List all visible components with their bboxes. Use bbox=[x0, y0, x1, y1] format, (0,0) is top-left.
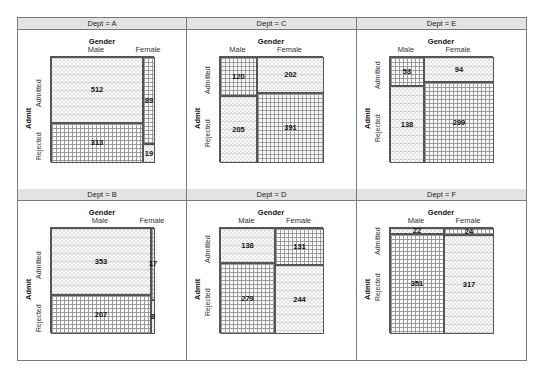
female-column-label: Female bbox=[279, 216, 319, 225]
cell-female-rejected: 19 bbox=[143, 144, 155, 163]
cell-count: 53 bbox=[402, 68, 412, 76]
mosaic-plot: 5123138919 bbox=[50, 56, 154, 162]
male-column-label: Male bbox=[227, 216, 267, 225]
cell-count: 17 bbox=[148, 260, 158, 268]
cell-male-rejected: 207 bbox=[51, 295, 151, 334]
cell-count: 131 bbox=[292, 243, 307, 251]
cell-count: 202 bbox=[283, 71, 298, 79]
panel-dept-f: Dept = FGenderMaleFemaleAdmitAdmittedRej… bbox=[357, 189, 526, 360]
cell-male-admitted: 512 bbox=[51, 57, 143, 123]
rejected-row-label: Rejected bbox=[374, 273, 381, 301]
cell-count: 138 bbox=[240, 242, 255, 250]
admit-axis-title: Admit bbox=[193, 279, 202, 300]
male-column-label: Male bbox=[396, 216, 436, 225]
admit-axis-title: Admit bbox=[193, 108, 202, 129]
cell-male-rejected: 279 bbox=[220, 263, 275, 334]
cell-count: 8 bbox=[150, 313, 156, 321]
cell-female-rejected: 8 bbox=[151, 300, 155, 334]
panel-title: Dept = C bbox=[187, 18, 356, 30]
cell-count: 353 bbox=[94, 258, 109, 266]
admitted-row-label: Admitted bbox=[204, 66, 211, 94]
panel-dept-b: Dept = BGenderMaleFemaleAdmitAdmittedRej… bbox=[18, 189, 186, 360]
cell-male-rejected: 313 bbox=[51, 123, 143, 163]
cell-male-rejected: 351 bbox=[390, 234, 444, 334]
cell-male-admitted: 138 bbox=[220, 228, 275, 263]
cell-count: 299 bbox=[452, 119, 467, 127]
mosaic-plot: 138279131244 bbox=[219, 227, 323, 333]
panel-title: Dept = B bbox=[18, 189, 186, 201]
cell-male-admitted: 353 bbox=[51, 228, 151, 295]
cell-count: 351 bbox=[410, 280, 425, 288]
panel-title: Dept = D bbox=[187, 189, 356, 201]
rejected-row-label: Rejected bbox=[374, 114, 381, 142]
cell-male-rejected: 205 bbox=[220, 96, 257, 163]
cell-male-rejected: 138 bbox=[390, 86, 424, 163]
female-column-label: Female bbox=[270, 45, 310, 54]
cell-count: 19 bbox=[144, 150, 154, 158]
cell-female-admitted: 24 bbox=[444, 228, 494, 235]
cell-count: 205 bbox=[231, 126, 246, 134]
cell-female-admitted: 89 bbox=[143, 57, 155, 144]
admitted-row-label: Admitted bbox=[35, 251, 42, 279]
male-column-label: Male bbox=[218, 45, 258, 54]
admit-axis-title: Admit bbox=[24, 279, 33, 300]
cell-female-rejected: 391 bbox=[257, 93, 324, 163]
cell-count: 89 bbox=[144, 97, 154, 105]
male-column-label: Male bbox=[76, 45, 116, 54]
cell-female-admitted: 94 bbox=[424, 57, 494, 82]
cell-count: 207 bbox=[94, 311, 109, 319]
cell-count: 120 bbox=[231, 73, 246, 81]
panel-title: Dept = A bbox=[18, 18, 186, 30]
cell-count: 391 bbox=[283, 124, 298, 132]
admit-axis-title: Admit bbox=[363, 279, 372, 300]
admitted-row-label: Admitted bbox=[374, 227, 381, 255]
admit-axis-title: Admit bbox=[24, 108, 33, 129]
cell-count: 244 bbox=[292, 296, 307, 304]
admitted-row-label: Admitted bbox=[204, 235, 211, 263]
panel-dept-a: Dept = AGenderMaleFemaleAdmitAdmittedRej… bbox=[18, 18, 186, 189]
panel-dept-e: Dept = EGenderMaleFemaleAdmitAdmittedRej… bbox=[357, 18, 526, 189]
cell-female-admitted: 202 bbox=[257, 57, 324, 93]
rejected-row-label: Rejected bbox=[35, 304, 42, 332]
cell-female-rejected: 244 bbox=[275, 265, 324, 334]
cell-count: 279 bbox=[240, 295, 255, 303]
female-column-label: Female bbox=[448, 216, 488, 225]
cell-male-admitted: 120 bbox=[220, 57, 257, 96]
rejected-row-label: Rejected bbox=[204, 288, 211, 316]
cell-count: 313 bbox=[90, 139, 105, 147]
female-column-label: Female bbox=[128, 45, 168, 54]
panel-dept-d: Dept = DGenderMaleFemaleAdmitAdmittedRej… bbox=[187, 189, 356, 360]
panel-title: Dept = E bbox=[357, 18, 526, 30]
cell-female-rejected: 299 bbox=[424, 82, 494, 163]
female-column-label: Female bbox=[132, 216, 172, 225]
cell-female-admitted: 131 bbox=[275, 228, 324, 265]
admit-axis-title: Admit bbox=[363, 108, 372, 129]
rejected-row-label: Rejected bbox=[204, 119, 211, 147]
panel-title: Dept = F bbox=[357, 189, 526, 201]
cell-female-admitted: 17 bbox=[151, 228, 155, 300]
male-column-label: Male bbox=[80, 216, 120, 225]
mosaic-plot: 5313894299 bbox=[389, 56, 493, 162]
cell-count: 317 bbox=[462, 281, 477, 289]
female-column-label: Female bbox=[438, 45, 478, 54]
cell-male-admitted: 53 bbox=[390, 57, 424, 86]
cell-count: 512 bbox=[90, 86, 105, 94]
male-column-label: Male bbox=[386, 45, 426, 54]
cell-female-rejected: 317 bbox=[444, 235, 494, 334]
rejected-row-label: Rejected bbox=[35, 132, 42, 160]
cell-count: 138 bbox=[400, 121, 415, 129]
admitted-row-label: Admitted bbox=[35, 79, 42, 107]
mosaic-plot: 120205202391 bbox=[219, 56, 323, 162]
mosaic-plot: 2235124317 bbox=[389, 227, 493, 333]
panel-dept-c: Dept = CGenderMaleFemaleAdmitAdmittedRej… bbox=[187, 18, 356, 189]
admitted-row-label: Admitted bbox=[374, 61, 381, 89]
mosaic-plot: 353207178 bbox=[50, 227, 154, 333]
cell-count: 94 bbox=[454, 66, 464, 74]
